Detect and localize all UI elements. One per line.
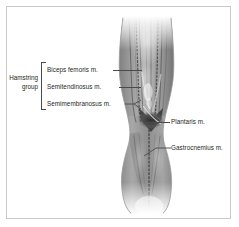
leader-semitendinosus [119,87,141,88]
label-biceps-femoris: Biceps femoris m. [47,66,98,74]
hamstring-group-label: Hamstring group [2,74,38,91]
label-plantaris: Plantaris m. [171,118,205,126]
label-semitendinosus: Semitendinosus m. [47,83,101,91]
leader-semimembranosus [124,98,146,112]
label-semimembranosus: Semimembranosus m. [47,100,111,108]
label-gastrocnemius: Gastrocnemius m. [171,144,223,152]
anatomy-figure: Hamstring group Biceps femoris m. Semite… [0,0,239,227]
hamstring-group-bracket [41,62,46,110]
leader-biceps-femoris [113,70,142,71]
hamstring-group-label-line2: group [2,83,38,92]
leader-plantaris [146,122,170,123]
hamstring-group-label-line1: Hamstring [2,74,38,83]
leader-gastrocnemius [143,140,172,158]
limb-body [103,16,191,214]
posterior-leg-illustration [103,16,191,214]
